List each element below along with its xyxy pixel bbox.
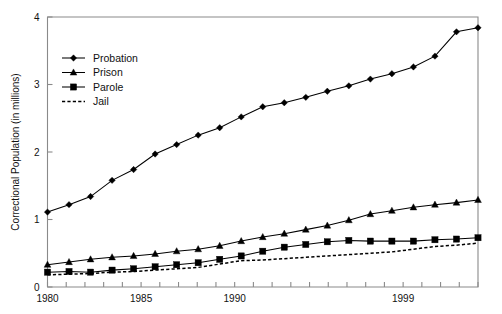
data-point-square <box>238 253 244 259</box>
data-point-diamond <box>195 132 201 138</box>
y-tick-label: 0 <box>34 282 40 293</box>
legend-label: Probation <box>93 52 138 64</box>
legend-item-parole: Parole <box>62 81 124 93</box>
x-tick-label: 1999 <box>392 293 415 304</box>
y-tick-label: 2 <box>34 147 40 158</box>
data-point-diamond <box>324 88 330 94</box>
x-tick-label: 1980 <box>36 293 59 304</box>
data-point-diamond <box>44 209 50 215</box>
data-point-square <box>303 241 309 247</box>
y-axis-ticks: 01234 <box>34 12 53 293</box>
data-point-diamond <box>173 141 179 147</box>
data-point-diamond <box>217 125 223 131</box>
y-tick-label: 3 <box>34 79 40 90</box>
data-point-diamond <box>475 25 481 31</box>
x-tick-label: 1985 <box>130 293 153 304</box>
data-point-square <box>475 235 481 241</box>
legend-item-jail: Jail <box>62 95 109 107</box>
series-prison <box>44 196 481 267</box>
data-point-diamond <box>260 104 266 110</box>
data-point-diamond <box>410 64 416 70</box>
correctional-population-chart: 01234 1980198519901999 Correctional Popu… <box>0 0 502 314</box>
series-parole <box>44 235 481 276</box>
data-point-square <box>453 236 459 242</box>
data-point-square <box>70 84 76 90</box>
data-point-diamond <box>367 76 373 82</box>
chart-canvas: 01234 1980198519901999 Correctional Popu… <box>0 0 502 314</box>
data-point-square <box>152 264 158 270</box>
data-point-diamond <box>389 71 395 77</box>
legend-label: Parole <box>93 81 124 93</box>
data-point-diamond <box>303 94 309 100</box>
data-point-square <box>389 238 395 244</box>
data-point-square <box>346 237 352 243</box>
legend-item-probation: Probation <box>62 52 138 64</box>
data-point-square <box>217 256 223 262</box>
data-point-triangle <box>475 196 482 202</box>
data-point-square <box>432 237 438 243</box>
data-point-diamond <box>346 83 352 89</box>
y-axis-title-text: Correctional Population (in millions) <box>10 73 21 230</box>
data-point-square <box>367 238 373 244</box>
y-axis-title: Correctional Population (in millions) <box>10 73 21 230</box>
data-point-square <box>174 262 180 268</box>
x-tick-label: 1990 <box>224 293 247 304</box>
x-axis-ticks: 1980198519901999 <box>36 282 478 304</box>
data-point-diamond <box>281 100 287 106</box>
data-point-square <box>260 248 266 254</box>
data-point-square <box>195 260 201 266</box>
data-point-square <box>324 239 330 245</box>
chart-legend: ProbationPrisonParoleJail <box>62 52 138 107</box>
data-point-diamond <box>238 114 244 120</box>
data-point-diamond <box>70 55 76 61</box>
legend-item-prison: Prison <box>62 66 123 78</box>
legend-label: Prison <box>93 66 123 78</box>
data-point-square <box>410 238 416 244</box>
y-tick-label: 1 <box>34 214 40 225</box>
legend-label: Jail <box>93 95 109 107</box>
data-point-square <box>281 244 287 250</box>
data-point-diamond <box>66 201 72 207</box>
y-tick-label: 4 <box>34 12 40 23</box>
data-point-square <box>87 269 93 275</box>
